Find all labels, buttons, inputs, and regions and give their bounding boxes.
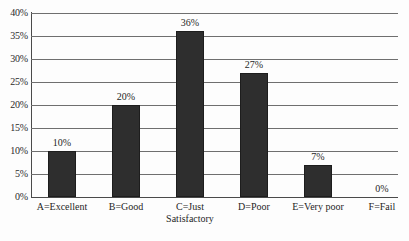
y-axis-labels: 40% 35% 30% 25% 20% 15% 10% 5% 0% — [0, 0, 28, 241]
y-tick-label-35: 35% — [0, 31, 28, 41]
y-tick-label-30: 30% — [0, 54, 28, 64]
x-tick-label-d-poor: D=Poor — [218, 201, 290, 213]
y-tick-label-25: 25% — [0, 77, 28, 87]
y-tick-label-15: 15% — [0, 123, 28, 133]
x-tick-label-b-good: B=Good — [90, 201, 162, 213]
x-axis-labels: A=Excellent B=Good C=Just Satisfactory D… — [31, 0, 398, 241]
y-tick-label-5: 5% — [0, 169, 28, 179]
y-tick-label-10: 10% — [0, 146, 28, 156]
x-tick-label-e-very-poor: E=Very poor — [282, 201, 354, 213]
y-tick-label-20: 20% — [0, 100, 28, 110]
bar-chart-figure: 40% 35% 30% 25% 20% 15% 10% 5% 0% 10% 20… — [0, 0, 409, 241]
x-tick-label-f-fail: F=Fail — [346, 201, 409, 213]
y-tick-label-0: 0% — [0, 192, 28, 202]
y-tick-label-40: 40% — [0, 8, 28, 18]
x-tick-label-c-just-satisfactory: C=Just Satisfactory — [154, 201, 226, 225]
x-tick-label-a-excellent: A=Excellent — [26, 201, 98, 213]
